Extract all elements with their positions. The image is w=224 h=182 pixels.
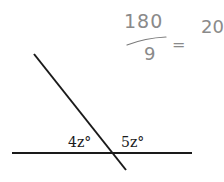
angle-label-left: 4z° xyxy=(68,134,91,150)
angle-diagram: 4z° 5z° 180 9 = 20 xyxy=(0,0,224,182)
handwritten-numerator: 180 xyxy=(124,10,163,32)
handwritten-result: 20 xyxy=(201,16,224,37)
handwritten-equals: = xyxy=(172,35,185,54)
handwritten-denominator: 9 xyxy=(144,43,155,64)
handwritten-calculation: 180 9 = 20 xyxy=(124,10,224,64)
angle-label-right: 5z° xyxy=(121,134,144,150)
